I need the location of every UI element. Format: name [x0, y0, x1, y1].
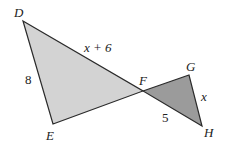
triangle-fgh [143, 75, 202, 126]
triangle-def [23, 21, 143, 124]
vertex-label-e: E [45, 128, 54, 143]
vertex-label-f: F [138, 73, 148, 88]
similar-triangles-diagram: D E F G H x + 6 8 5 x [0, 0, 228, 149]
side-label-gh: x [200, 89, 207, 104]
vertex-label-h: H [203, 125, 214, 140]
side-label-de: 8 [25, 72, 32, 87]
vertex-label-g: G [186, 59, 196, 74]
vertex-label-d: D [13, 5, 24, 20]
side-label-df: x + 6 [83, 40, 112, 55]
side-label-fh: 5 [162, 110, 169, 125]
